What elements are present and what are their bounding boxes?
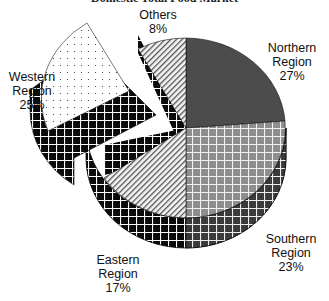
label-northern: Northern Region 27%	[256, 41, 328, 83]
label-southern: Southern Region 23%	[254, 232, 328, 274]
label-others: Others 8%	[118, 8, 198, 36]
label-western: Western Region 25%	[0, 70, 64, 112]
label-eastern: Eastern Region 17%	[80, 253, 156, 295]
